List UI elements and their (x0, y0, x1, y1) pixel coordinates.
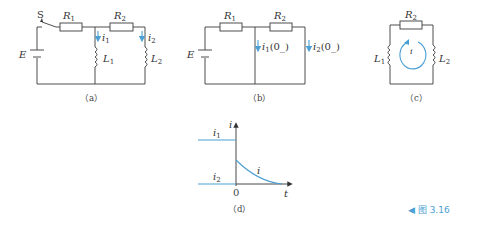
svg-text:L2: L2 (438, 53, 450, 66)
inductor-l1-icon (95, 47, 97, 67)
svg-text:S: S (37, 9, 44, 20)
resistor-r1-icon (60, 23, 82, 31)
svg-text:R1: R1 (62, 10, 75, 23)
panel-a-label: （a） (80, 93, 103, 103)
svg-text:i2: i2 (148, 32, 156, 45)
panel-b-label: （b） (248, 93, 271, 103)
resistor-r2-icon (400, 21, 422, 29)
svg-text:R2: R2 (404, 9, 417, 22)
resistor-r1-icon (220, 23, 242, 31)
switch-icon (42, 22, 56, 27)
svg-text:i2: i2 (213, 171, 221, 184)
circuit-figure: S R1 R2 E i1 i2 L1 L2 （a） R1 R2 E i1(0_)… (0, 0, 477, 226)
panel-d-label: （d） (228, 204, 251, 214)
svg-text:i1: i1 (213, 127, 221, 140)
svg-text:i1(0_): i1(0_) (262, 41, 289, 54)
svg-text:E: E (18, 49, 27, 60)
graph-d: i i1 i2 i 0 t （d） (198, 119, 290, 214)
figure-caption: ◀ 图 3.16 (408, 205, 450, 215)
resistor-r2-icon (110, 23, 133, 31)
svg-text:R1: R1 (223, 10, 236, 23)
svg-text:i: i (257, 165, 260, 176)
inductor-l1-icon (388, 45, 390, 65)
svg-text:i: i (410, 47, 413, 56)
svg-text:R2: R2 (113, 10, 126, 23)
resistor-r2-icon (270, 23, 292, 31)
inductor-l2-icon (433, 45, 435, 65)
svg-text:L1: L1 (373, 53, 385, 66)
circuit-b: R1 R2 E i1(0_) i2(0_) （b） (186, 10, 340, 103)
svg-text:E: E (186, 49, 195, 60)
circuit-c: R2 L1 L2 i （c） (373, 9, 450, 103)
svg-text:0: 0 (233, 187, 239, 198)
svg-text:i: i (229, 119, 232, 130)
svg-text:R2: R2 (273, 10, 286, 23)
panel-c-label: （c） (405, 93, 428, 103)
circuit-a: S R1 R2 E i1 i2 L1 L2 （a） (18, 9, 162, 103)
svg-text:i1: i1 (102, 32, 110, 45)
inductor-l2-icon (145, 47, 147, 67)
loop-current-icon (400, 42, 426, 69)
svg-text:i2(0_): i2(0_) (313, 41, 340, 54)
svg-text:t: t (284, 188, 289, 199)
svg-text:L1: L1 (102, 53, 114, 66)
svg-text:L2: L2 (150, 53, 162, 66)
